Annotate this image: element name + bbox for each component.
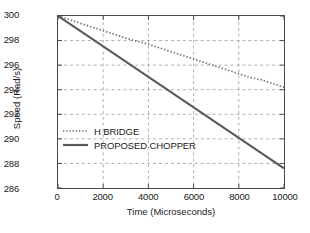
y-tick-label: 288 — [0, 158, 19, 169]
y-tick-label: 286 — [0, 183, 19, 194]
plot-area — [57, 15, 285, 189]
axis-tick-marks — [58, 16, 284, 188]
legend: H BRIDGE PROPOSED CHOPPER — [63, 124, 196, 152]
y-axis-title: Speed (Rad/s) — [11, 39, 22, 159]
legend-swatch-dotted — [63, 126, 88, 136]
x-tick-label: 8000 — [229, 191, 249, 202]
legend-label-h-bridge: H BRIDGE — [94, 126, 139, 137]
y-tick-label: 300 — [0, 9, 19, 20]
legend-item-proposed-chopper: PROPOSED CHOPPER — [63, 138, 196, 152]
legend-label-proposed-chopper: PROPOSED CHOPPER — [94, 140, 196, 151]
legend-item-h-bridge: H BRIDGE — [63, 124, 196, 138]
x-tick-label: 6000 — [184, 191, 204, 202]
x-axis-title: Time (Microseconds) — [57, 206, 285, 217]
x-tick-label: 10000 — [272, 191, 297, 202]
x-tick-label: 0 — [54, 191, 59, 202]
chart-figure: 286288290292294296298300 020004000600080… — [0, 0, 310, 233]
x-tick-label: 4000 — [138, 191, 158, 202]
x-tick-label: 2000 — [92, 191, 112, 202]
legend-swatch-solid — [63, 140, 88, 150]
